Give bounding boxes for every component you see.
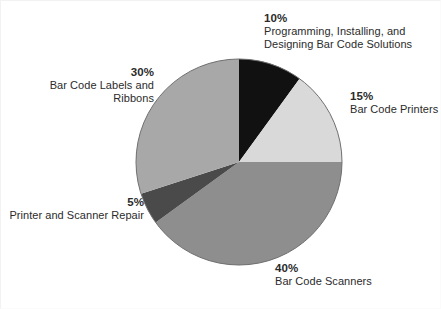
slice-desc-labels-ribbons-line1: Bar Code Labels and [8,79,154,92]
pie-chart-page: 10% Programming, Installing, and Designi… [0,0,441,309]
slice-label-labels-ribbons: 30% Bar Code Labels and Ribbons [8,66,154,105]
slice-desc-scanners: Bar Code Scanners [275,275,435,288]
slice-desc-programming-line1: Programming, Installing, and [264,25,440,38]
slice-percent-scanners: 40% [275,262,435,275]
slice-desc-printers: Bar Code Printers [350,103,441,116]
slice-label-repair: 5% Printer and Scanner Repair [4,196,144,222]
pie-slice-group [136,59,342,265]
slice-percent-labels-ribbons: 30% [8,66,154,79]
slice-percent-programming: 10% [264,12,440,25]
slice-desc-repair: Printer and Scanner Repair [4,209,144,222]
slice-label-scanners: 40% Bar Code Scanners [275,262,435,288]
slice-percent-printers: 15% [350,90,441,103]
slice-label-programming: 10% Programming, Installing, and Designi… [264,12,440,51]
slice-desc-labels-ribbons-line2: Ribbons [8,92,154,105]
slice-desc-programming-line2: Designing Bar Code Solutions [264,38,440,51]
slice-percent-repair: 5% [4,196,144,209]
slice-label-printers: 15% Bar Code Printers [350,90,441,116]
